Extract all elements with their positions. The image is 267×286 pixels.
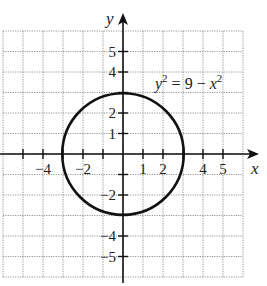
y-tick-label: 5 [109,44,117,60]
graph: −4−212455421−2−4−5 x y y2 = 9 − x2 [0,0,267,286]
equation-label: y2 = 9 − x2 [153,72,222,93]
y-tick-label: 4 [109,64,117,80]
equation-middle: = 9 − [168,75,210,92]
y-tick-label: −5 [100,249,116,265]
y-tick-label: 1 [109,126,117,142]
x-tick-label: 5 [219,161,227,177]
x-tick-label: −2 [75,161,91,177]
x-axis-label: x [250,159,259,178]
x-tick-label: 4 [199,161,207,177]
y-tick-label: 2 [109,105,117,121]
y-tick-label: −2 [100,187,116,203]
x-tick-label: −4 [35,161,51,177]
y-tick-label: −4 [100,228,116,244]
equation-rhs-exp: 2 [217,72,223,84]
y-axis-label: y [104,9,114,28]
equation-rhs-var: x [209,75,217,92]
x-tick-label: 2 [159,161,167,177]
x-tick-label: 1 [139,161,147,177]
axes [0,13,259,283]
